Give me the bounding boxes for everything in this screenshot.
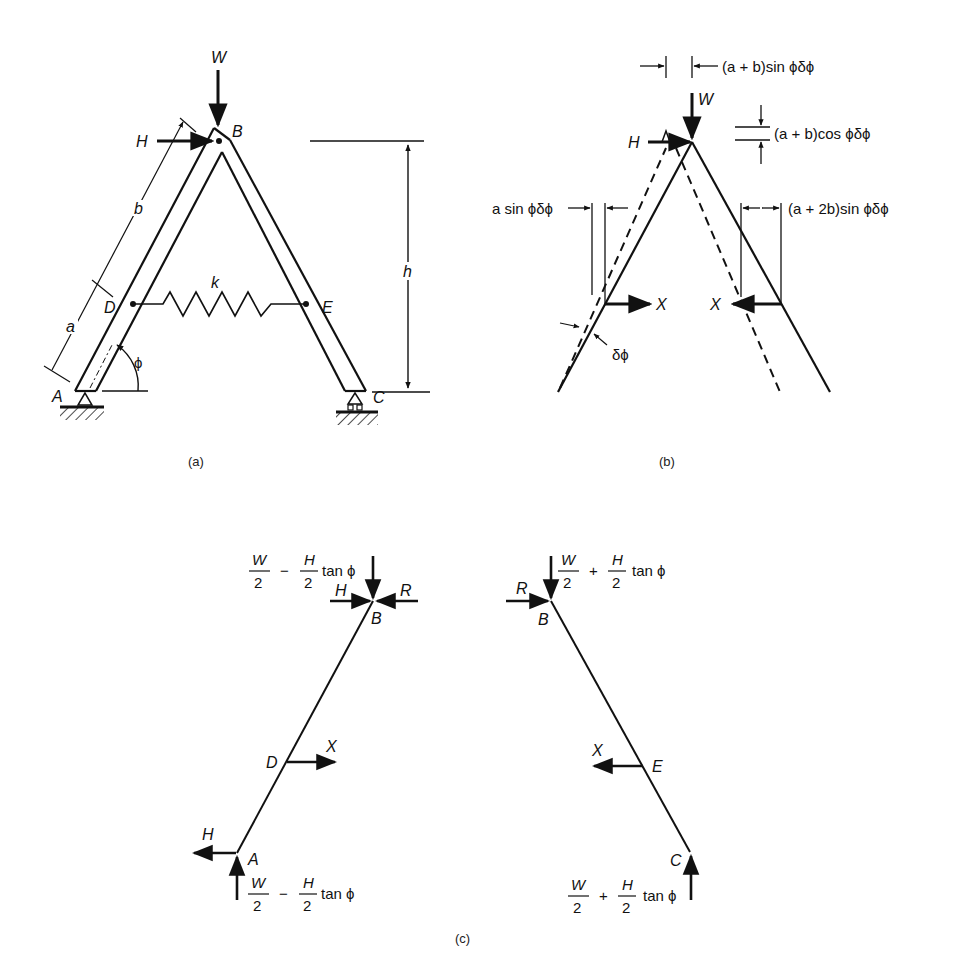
disp-top-horizontal	[640, 56, 718, 78]
svg-text:H: H	[304, 551, 315, 568]
fbd-bar-bc	[551, 601, 690, 852]
label-w: W	[211, 49, 228, 66]
label-h-height: h	[403, 263, 412, 280]
fbd-right-label-b: B	[538, 611, 549, 628]
label-a: A	[51, 388, 63, 405]
svg-text:2: 2	[612, 574, 620, 591]
roller-support-c	[336, 393, 378, 425]
fbd-right-label-x: X	[591, 742, 604, 759]
panel-b: W H (a + b)sin ϕδϕ (a + b)cos ϕδϕ a sin …	[492, 56, 889, 469]
label-x-right-b: X	[709, 296, 722, 313]
svg-text:−: −	[279, 885, 288, 902]
svg-text:2: 2	[563, 574, 571, 591]
bar-ab	[75, 128, 222, 391]
svg-text:W: W	[251, 874, 267, 891]
disp-d	[568, 203, 628, 304]
fbd-left-label-x: X	[325, 738, 338, 755]
svg-text:H: H	[612, 551, 623, 568]
label-h: H	[136, 133, 148, 150]
pin-b	[216, 138, 222, 144]
label-w-b: W	[698, 91, 715, 108]
svg-text:tan ϕ: tan ϕ	[643, 887, 676, 904]
svg-text:2: 2	[304, 574, 312, 591]
svg-text:2: 2	[303, 897, 311, 914]
panel-a: W H B b a k D E ϕ	[44, 49, 430, 469]
caption-a: (a)	[188, 454, 204, 469]
label-b: B	[232, 123, 243, 140]
label-e: E	[322, 299, 333, 316]
fbd-right-label-e: E	[652, 758, 663, 775]
svg-text:−: −	[280, 562, 289, 579]
point-d	[130, 301, 136, 307]
label-disp-e: (a + 2b)sin ϕδϕ	[788, 200, 889, 217]
spring-k	[133, 292, 306, 316]
svg-text:tan ϕ: tan ϕ	[632, 562, 665, 579]
label-disp-top-h: (a + b)sin ϕδϕ	[722, 58, 814, 75]
label-a-length: a	[66, 318, 75, 335]
disp-e	[741, 203, 781, 304]
svg-text:tan ϕ: tan ϕ	[321, 885, 354, 902]
fbd-right-label-c: C	[670, 852, 682, 869]
svg-text:2: 2	[254, 574, 262, 591]
label-h-b: H	[628, 134, 640, 151]
panel-c: W 2 − H 2 tan ϕ H R B X D H A W 2 − H	[194, 551, 691, 946]
fbd-left-label-h-bottom: H	[202, 826, 214, 843]
pin-support-a	[60, 393, 104, 420]
rotation-delta-phi	[560, 323, 607, 345]
fbd-left-label-r: R	[400, 582, 412, 599]
point-e	[303, 301, 309, 307]
bars-original	[558, 142, 830, 392]
fbd-left-label-a: A	[247, 851, 259, 868]
svg-text:2: 2	[573, 899, 581, 916]
fbd-right-top-vertical-label: W 2 + H 2 tan ϕ	[558, 551, 665, 591]
figure-canvas: W H B b a k D E ϕ	[0, 0, 957, 975]
caption-b: (b)	[659, 454, 675, 469]
svg-text:H: H	[303, 874, 314, 891]
svg-text:W: W	[561, 551, 577, 568]
dimension-a-b	[44, 118, 196, 382]
svg-text:W: W	[252, 551, 268, 568]
fbd-right-bottom-vertical-label: W 2 + H 2 tan ϕ	[568, 876, 676, 916]
label-x-left-b: X	[655, 296, 668, 313]
label-disp-d: a sin ϕδϕ	[492, 200, 553, 217]
svg-text:H: H	[622, 876, 633, 893]
label-disp-top-v: (a + b)cos ϕδϕ	[774, 125, 870, 142]
label-delta-phi: δϕ	[612, 346, 629, 363]
fbd-left-bottom-vertical-label: W 2 − H 2 tan ϕ	[248, 874, 354, 914]
caption-c: (c)	[455, 931, 470, 946]
svg-text:W: W	[571, 876, 587, 893]
svg-text:+: +	[599, 887, 608, 904]
svg-text:tan ϕ: tan ϕ	[322, 562, 355, 579]
fbd-left-label-b: B	[371, 610, 382, 627]
fbd-left-label-d: D	[266, 754, 278, 771]
bar-bc	[214, 128, 366, 391]
dimension-h	[310, 141, 430, 392]
svg-text:2: 2	[253, 897, 261, 914]
label-d: D	[104, 299, 116, 316]
disp-top-vertical	[735, 105, 770, 164]
svg-text:2: 2	[622, 899, 630, 916]
label-b-length: b	[134, 200, 143, 217]
svg-text:+: +	[589, 562, 598, 579]
fbd-bar-ab	[237, 601, 373, 853]
label-k: k	[211, 274, 220, 291]
fbd-right-label-r: R	[516, 580, 528, 597]
fbd-left-label-h-top: H	[335, 582, 347, 599]
label-phi: ϕ	[134, 354, 142, 371]
